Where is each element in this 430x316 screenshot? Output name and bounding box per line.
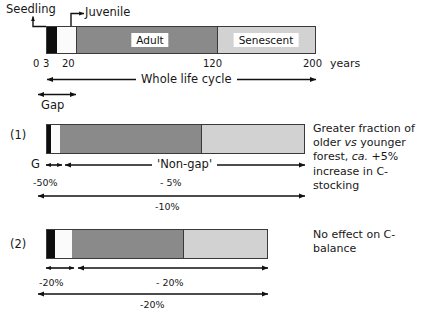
scenario-2-segment-adult — [72, 230, 183, 258]
scenario-1-segment-juvenile — [51, 125, 60, 153]
seedling-callout-label: Seedling — [6, 3, 56, 16]
scenario-1-annotation: Greater fraction of older vs younger for… — [313, 122, 429, 193]
scenario-2-annotation: No effect on C-balance — [313, 228, 429, 256]
scenario-1-row-label: (1) — [10, 129, 26, 142]
whole-life-cycle-label: Whole life cycle — [136, 73, 237, 86]
scenario-2-bar — [46, 229, 268, 259]
tick-label-0: 0 — [33, 57, 39, 70]
tick-label-200: 200 — [303, 57, 322, 70]
seedling-leader-line — [33, 17, 46, 27]
juvenile-callout-label: Juvenile — [85, 6, 130, 19]
scenario-2-segment-senescent — [183, 230, 267, 258]
scenario-1-segment-senescent — [201, 125, 304, 153]
segment-seedling — [47, 27, 57, 53]
tick-label-20: 20 — [62, 57, 75, 70]
scenario-2-segment-seedling — [47, 230, 55, 258]
figure-canvas: Seedling Juvenile Adult Senescent 0 3 20… — [0, 0, 430, 316]
scenario-1-gap-letter: G — [31, 158, 40, 171]
tick-label-3: 3 — [43, 57, 49, 70]
segment-juvenile — [57, 27, 76, 53]
scenario-2-row-label: (2) — [10, 238, 26, 251]
gap-label: Gap — [41, 99, 64, 112]
tick-label-120: 120 — [203, 57, 222, 70]
axis-units-label: years — [330, 57, 360, 70]
scenario-1-gap-value: -50% — [33, 176, 58, 189]
segment-adult-label: Adult — [131, 33, 168, 47]
scenario-1-nongap-label: 'Non-gap' — [152, 158, 217, 171]
scenario-2-segment-juvenile — [55, 230, 72, 258]
scenario-2-gap-value: -20% — [39, 276, 64, 289]
segment-senescent-label: Senescent — [234, 33, 299, 47]
scenario-1-total-value: -10% — [155, 200, 180, 213]
scenario-1-nongap-value: - 5% — [160, 176, 182, 189]
scenario-2-nongap-value: - 20% — [156, 276, 184, 289]
scenario-1-bar — [46, 124, 305, 154]
scenario-2-total-value: -20% — [140, 298, 165, 311]
scenario-1-segment-adult — [60, 125, 201, 153]
